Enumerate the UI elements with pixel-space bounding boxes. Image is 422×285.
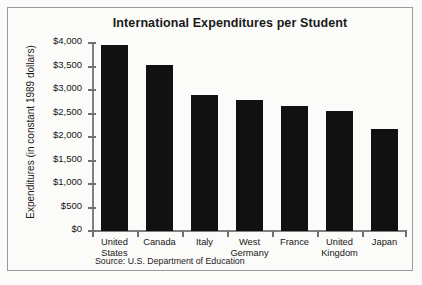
bar (101, 45, 129, 231)
x-axis-end-tick (92, 231, 94, 237)
y-axis-tick: $1,000 (88, 183, 96, 185)
y-axis-title: Expenditures (in constant 1989 dollars) (11, 62, 51, 202)
bar (326, 111, 354, 231)
y-axis-tick-label: $0 (71, 223, 82, 234)
bar (236, 100, 264, 231)
source-note: Source: U.S. Department of Education (95, 256, 245, 266)
bar (371, 129, 399, 231)
x-axis-category-label: West Germany (227, 237, 272, 258)
x-axis-category-label: Japan (362, 237, 407, 248)
y-axis-tick-label: $1,500 (53, 153, 82, 164)
chart-title: International Expenditures per Student (60, 16, 400, 30)
y-axis-tick: $1,500 (88, 160, 96, 162)
bar (191, 95, 219, 231)
chart-figure: International Expenditures per Student E… (0, 0, 422, 285)
y-axis-title-text: Expenditures (in constant 1989 dollars) (25, 45, 38, 218)
y-axis-tick-label: $3,000 (53, 82, 82, 93)
y-axis-tick-label: $4,000 (53, 35, 82, 46)
y-axis-tick: $4,000 (88, 42, 96, 44)
x-axis-category-label: France (272, 237, 317, 248)
y-axis-tick: $3,500 (88, 66, 96, 68)
y-axis-tick-label: $3,500 (53, 59, 82, 70)
x-axis-category-label: United States (92, 237, 137, 258)
x-axis-end-tick (405, 231, 407, 237)
y-axis-tick: $3,000 (88, 89, 96, 91)
x-axis-category-label: Italy (182, 237, 227, 248)
bar (146, 65, 174, 231)
y-axis-tick-label: $500 (61, 200, 82, 211)
x-axis-category-label: United Kingdom (317, 237, 362, 258)
y-axis-tick-label: $2,000 (53, 129, 82, 140)
x-axis-category-label: Canada (137, 237, 182, 248)
y-axis-tick-label: $2,500 (53, 106, 82, 117)
y-axis-tick: $500 (88, 207, 96, 209)
y-axis-tick: $2,000 (88, 136, 96, 138)
plot-area: $0$500$1,000$1,500$2,000$2,500$3,000$3,5… (92, 43, 407, 231)
y-axis-tick-label: $1,000 (53, 176, 82, 187)
bar (281, 106, 309, 231)
y-axis-tick: $2,500 (88, 113, 96, 115)
